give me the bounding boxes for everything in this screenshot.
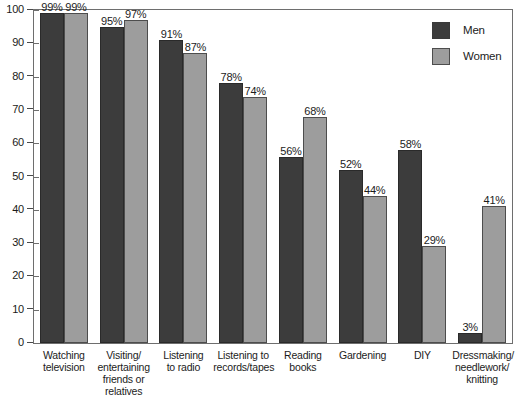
bar-women: 44% bbox=[363, 196, 387, 343]
y-axis-tick-mark bbox=[27, 108, 33, 109]
y-axis-tick-label: 90 bbox=[12, 36, 24, 48]
bar-men: 52% bbox=[339, 170, 363, 343]
y-axis-tick-mark bbox=[27, 142, 33, 143]
x-axis-label-line: Gardening bbox=[333, 349, 393, 361]
y-axis-tick-mark bbox=[27, 42, 33, 43]
bar-group: 99%99% bbox=[40, 10, 88, 343]
y-axis-tick-label: 80 bbox=[12, 70, 24, 82]
legend-swatch-men bbox=[432, 22, 450, 39]
y-axis-tick: 70 bbox=[12, 103, 33, 115]
bar-value-label: 99% bbox=[65, 1, 86, 13]
y-axis-inner-tick bbox=[34, 343, 39, 344]
x-axis-label-line: Dressmaking/ bbox=[452, 349, 512, 361]
y-axis-tick-mark bbox=[27, 75, 33, 76]
y-axis-tick: 30 bbox=[12, 236, 33, 248]
y-axis-tick-label: 40 bbox=[12, 203, 24, 215]
legend-item-men: Men bbox=[432, 22, 501, 39]
bar-value-label: 95% bbox=[101, 15, 122, 27]
x-axis-label-line: Reading bbox=[273, 349, 333, 361]
y-axis-tick: 60 bbox=[12, 136, 33, 148]
bar-value-label: 78% bbox=[221, 71, 242, 83]
x-axis-label-line: Listening bbox=[154, 349, 214, 361]
y-axis: 1009080706050403020100 bbox=[0, 9, 33, 344]
y-axis-tick-mark bbox=[27, 342, 33, 343]
bar-men: 58% bbox=[398, 150, 422, 343]
x-axis-label-line: needlework/ bbox=[452, 361, 512, 373]
y-axis-tick-mark bbox=[27, 9, 33, 10]
x-axis-label-line: Listening to bbox=[213, 349, 273, 361]
bar-value-label: 91% bbox=[161, 28, 182, 40]
y-axis-tick: 90 bbox=[12, 36, 33, 48]
bar-value-label: 3% bbox=[462, 321, 477, 333]
y-axis-tick-label: 30 bbox=[12, 236, 24, 248]
y-axis-tick: 0 bbox=[18, 336, 33, 348]
x-axis-label: Listening torecords/tapes bbox=[213, 349, 273, 373]
x-axis-label-line: books bbox=[273, 361, 333, 373]
y-axis-tick-mark bbox=[27, 208, 33, 209]
bar-group: 91%87% bbox=[159, 10, 207, 343]
bar-chart: 1009080706050403020100 99%99%95%97%91%87… bbox=[0, 0, 531, 400]
x-axis-label-line: entertaining bbox=[94, 361, 154, 373]
legend-item-women: Women bbox=[432, 48, 501, 65]
bar-value-label: 56% bbox=[280, 145, 301, 157]
bar-men: 56% bbox=[279, 157, 303, 343]
y-axis-tick-mark bbox=[27, 175, 33, 176]
bar-women: 74% bbox=[243, 97, 267, 343]
x-axis-label-line: to radio bbox=[154, 361, 214, 373]
bar-women: 99% bbox=[64, 13, 88, 343]
bar-value-label: 99% bbox=[41, 1, 62, 13]
bar-women: 41% bbox=[482, 206, 506, 343]
y-axis-tick: 100 bbox=[6, 3, 33, 15]
legend-label: Men bbox=[463, 24, 485, 37]
bar-women: 29% bbox=[422, 246, 446, 343]
bar-value-label: 74% bbox=[245, 85, 266, 97]
bar-men: 99% bbox=[40, 13, 64, 343]
bar-group: 56%68% bbox=[279, 10, 327, 343]
x-axis-label-line: Watching bbox=[34, 349, 94, 361]
legend-label: Women bbox=[463, 50, 501, 63]
x-axis-label: DIY bbox=[393, 349, 453, 361]
x-axis-label: Listeningto radio bbox=[154, 349, 214, 373]
y-axis-tick-label: 60 bbox=[12, 136, 24, 148]
x-axis-label-line: records/tapes bbox=[213, 361, 273, 373]
y-axis-tick-label: 50 bbox=[12, 170, 24, 182]
x-axis-label-line: television bbox=[34, 361, 94, 373]
bar-men: 95% bbox=[100, 27, 124, 343]
bar-women: 68% bbox=[303, 117, 327, 343]
y-axis-tick: 80 bbox=[12, 70, 33, 82]
y-axis-tick-label: 100 bbox=[6, 3, 24, 15]
x-axis-label-line: friends or bbox=[94, 373, 154, 385]
x-axis-label: Readingbooks bbox=[273, 349, 333, 373]
y-axis-tick-label: 10 bbox=[12, 303, 24, 315]
x-axis-labels: WatchingtelevisionVisiting/entertainingf… bbox=[34, 349, 512, 400]
legend-swatch-women bbox=[432, 48, 450, 65]
bar-men: 3% bbox=[458, 333, 482, 343]
x-axis-label: Watchingtelevision bbox=[34, 349, 94, 373]
bar-value-label: 97% bbox=[125, 8, 146, 20]
x-axis-label-line: DIY bbox=[393, 349, 453, 361]
y-axis-tick-mark bbox=[27, 308, 33, 309]
y-axis-tick-mark bbox=[27, 275, 33, 276]
bar-value-label: 68% bbox=[304, 105, 325, 117]
x-axis-label-line: knitting bbox=[452, 373, 512, 385]
y-axis-tick-label: 0 bbox=[18, 336, 24, 348]
bar-women: 97% bbox=[124, 20, 148, 343]
bar-men: 91% bbox=[159, 40, 183, 343]
y-axis-tick-label: 70 bbox=[12, 103, 24, 115]
y-axis-tick: 20 bbox=[12, 269, 33, 281]
bar-group: 95%97% bbox=[100, 10, 148, 343]
bar-group: 78%74% bbox=[219, 10, 267, 343]
bar-men: 78% bbox=[219, 83, 243, 343]
x-axis-label: Dressmaking/needlework/knitting bbox=[452, 349, 512, 385]
y-axis-tick-label: 20 bbox=[12, 269, 24, 281]
x-axis-label-line: relatives bbox=[94, 385, 154, 397]
bar-value-label: 52% bbox=[340, 158, 361, 170]
bar-value-label: 58% bbox=[400, 138, 421, 150]
y-axis-tick-mark bbox=[27, 242, 33, 243]
y-axis-tick: 10 bbox=[12, 303, 33, 315]
y-axis-tick: 50 bbox=[12, 170, 33, 182]
bar-value-label: 41% bbox=[484, 194, 505, 206]
x-axis-label-line: Visiting/ bbox=[94, 349, 154, 361]
bar-value-label: 87% bbox=[185, 41, 206, 53]
bar-women: 87% bbox=[183, 53, 207, 343]
